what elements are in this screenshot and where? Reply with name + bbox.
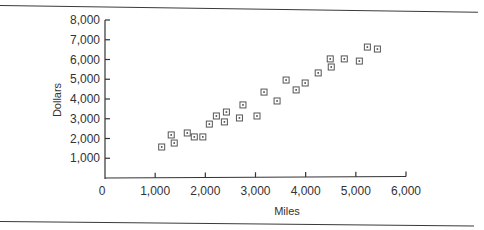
data-point bbox=[213, 113, 219, 119]
marker-center-dot bbox=[343, 58, 345, 60]
data-point bbox=[206, 121, 212, 127]
y-tick-label: 5,000 bbox=[70, 72, 100, 86]
x-tick-label: 4,000 bbox=[291, 184, 321, 198]
x-tick-label: 1,000 bbox=[140, 184, 170, 198]
data-point bbox=[191, 134, 197, 140]
marker-center-dot bbox=[226, 111, 228, 113]
marker-center-dot bbox=[329, 58, 331, 60]
marker-center-dot bbox=[209, 123, 211, 125]
x-axis-title: Miles bbox=[274, 205, 300, 217]
marker-center-dot bbox=[330, 66, 332, 68]
marker-center-dot bbox=[224, 121, 226, 123]
marker-center-dot bbox=[317, 72, 319, 74]
data-point bbox=[302, 80, 308, 86]
marker-center-dot bbox=[242, 104, 244, 106]
data-points bbox=[159, 44, 381, 150]
data-point bbox=[293, 87, 299, 93]
data-point bbox=[274, 98, 280, 104]
y-tick-label: 3,000 bbox=[70, 112, 100, 126]
x-axis: 01,0002,0003,0004,0005,0006,000 bbox=[99, 172, 422, 199]
data-point bbox=[171, 140, 177, 146]
marker-center-dot bbox=[285, 79, 287, 81]
data-point bbox=[236, 115, 242, 121]
marker-center-dot bbox=[377, 48, 379, 50]
marker-center-dot bbox=[256, 115, 258, 117]
x-tick-label: 2,000 bbox=[190, 184, 220, 198]
data-point bbox=[327, 56, 333, 62]
marker-center-dot bbox=[276, 100, 278, 102]
data-point bbox=[200, 134, 206, 140]
data-point bbox=[315, 70, 321, 76]
marker-center-dot bbox=[202, 136, 204, 138]
data-point bbox=[168, 132, 174, 138]
marker-center-dot bbox=[161, 146, 163, 148]
data-point bbox=[221, 119, 227, 125]
marker-center-dot bbox=[170, 134, 172, 136]
y-tick-label: 1,000 bbox=[70, 151, 100, 165]
y-tick-label: 4,000 bbox=[70, 92, 100, 106]
data-point bbox=[374, 46, 380, 52]
marker-center-dot bbox=[216, 115, 218, 117]
y-tick-label: 2,000 bbox=[70, 132, 100, 146]
y-tick-label: 8,000 bbox=[70, 13, 100, 27]
marker-center-dot bbox=[239, 117, 241, 119]
data-point bbox=[254, 113, 260, 119]
marker-center-dot bbox=[304, 82, 306, 84]
marker-center-dot bbox=[173, 142, 175, 144]
x-tick-label: 3,000 bbox=[240, 184, 270, 198]
data-point bbox=[356, 58, 362, 64]
data-point bbox=[283, 77, 289, 83]
data-point bbox=[261, 89, 267, 95]
marker-center-dot bbox=[186, 132, 188, 134]
data-point bbox=[240, 102, 246, 108]
x-tick-label: 6,000 bbox=[391, 184, 421, 198]
data-point bbox=[328, 64, 334, 70]
data-point bbox=[364, 44, 370, 50]
marker-center-dot bbox=[193, 136, 195, 138]
data-point bbox=[341, 56, 347, 62]
marker-center-dot bbox=[263, 91, 265, 93]
data-point bbox=[159, 144, 165, 150]
x-tick-label: 0 bbox=[99, 184, 106, 198]
data-point bbox=[223, 109, 229, 115]
x-tick-label: 5,000 bbox=[341, 184, 371, 198]
y-tick-label: 7,000 bbox=[70, 33, 100, 47]
scatter-chart: 1,0002,0003,0004,0005,0006,0007,0008,000… bbox=[0, 0, 484, 230]
marker-center-dot bbox=[295, 89, 297, 91]
marker-center-dot bbox=[359, 60, 361, 62]
data-point bbox=[184, 130, 190, 136]
y-axis: 1,0002,0003,0004,0005,0006,0007,0008,000 bbox=[70, 13, 110, 179]
y-tick-label: 6,000 bbox=[70, 53, 100, 67]
y-axis-title: Dollars bbox=[51, 82, 63, 117]
marker-center-dot bbox=[367, 46, 369, 48]
